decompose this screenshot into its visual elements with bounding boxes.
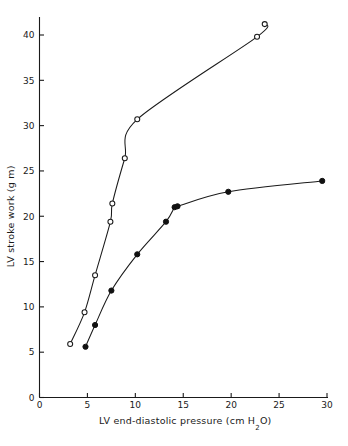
x-tick-label-0: 0 — [37, 400, 43, 410]
y-tick-label-15: 15 — [23, 257, 34, 267]
y-tick-label-20: 20 — [23, 212, 35, 222]
data-point-filled-circle-curve-0 — [83, 344, 88, 349]
data-point-filled-circle-curve-7 — [226, 189, 231, 194]
x-tick-label-15: 15 — [178, 400, 189, 410]
data-point-open-circle-curve-2 — [93, 273, 98, 278]
data-point-open-circle-curve-0 — [68, 342, 73, 347]
data-point-filled-circle-curve-3 — [135, 252, 140, 257]
axes: 0510152025300510152025303540 — [23, 17, 333, 410]
y-tick-label-10: 10 — [23, 302, 35, 312]
data-point-open-circle-curve-7 — [255, 34, 260, 39]
series-open-circle-curve — [68, 22, 268, 347]
x-tick-label-5: 5 — [85, 400, 91, 410]
chart-figure: 0510152025300510152025303540 LV end-dias… — [0, 0, 348, 446]
x-tick-label-20: 20 — [225, 400, 237, 410]
data-point-open-circle-curve-6 — [135, 117, 140, 122]
x-tick-label-25: 25 — [273, 400, 284, 410]
x-axis-title: LV end-diastolic pressure (cm H2O) — [99, 415, 271, 432]
axis-titles: LV end-diastolic pressure (cm H2O)LV str… — [5, 165, 272, 432]
data-point-filled-circle-curve-1 — [92, 322, 97, 327]
y-tick-label-0: 0 — [29, 393, 35, 403]
data-point-filled-circle-curve-6 — [175, 204, 180, 209]
y-axis-title: LV stroke work (g m) — [5, 165, 16, 267]
data-point-filled-circle-curve-4 — [163, 219, 168, 224]
data-point-open-circle-curve-8 — [262, 22, 267, 27]
x-tick-label-30: 30 — [321, 400, 333, 410]
y-tick-label-30: 30 — [23, 121, 35, 131]
y-tick-label-25: 25 — [23, 166, 34, 176]
x-tick-label-10: 10 — [130, 400, 142, 410]
data-point-filled-circle-curve-8 — [320, 178, 325, 183]
curve-filled-circle-curve — [86, 181, 323, 347]
data-point-open-circle-curve-1 — [82, 310, 87, 315]
y-tick-label-5: 5 — [29, 347, 35, 357]
plot-area: 0510152025300510152025303540 LV end-dias… — [0, 0, 348, 446]
data-series — [68, 22, 325, 350]
data-point-filled-circle-curve-2 — [109, 288, 114, 293]
series-filled-circle-curve — [83, 178, 325, 349]
y-tick-label-40: 40 — [23, 30, 35, 40]
data-point-open-circle-curve-5 — [122, 156, 127, 161]
data-point-open-circle-curve-3 — [108, 219, 113, 224]
data-point-open-circle-curve-4 — [110, 201, 115, 206]
y-tick-label-35: 35 — [23, 76, 34, 86]
curve-open-circle-curve — [70, 24, 268, 344]
